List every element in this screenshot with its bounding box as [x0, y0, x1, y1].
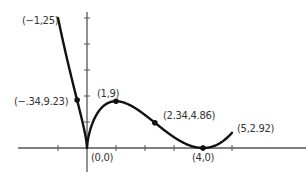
point-label-neg1-25: (−1,25)	[22, 15, 58, 26]
point-label-4-0: (4,0)	[192, 152, 214, 163]
point-label-neg034-923: (−.34,9.23)	[14, 96, 68, 107]
point-marker	[113, 98, 119, 104]
function-curve	[58, 18, 232, 148]
point-label-5-292: (5,2.92)	[237, 123, 274, 134]
point-label-1-9: (1,9)	[97, 88, 119, 99]
point-marker	[200, 145, 206, 151]
point-label-origin: (0,0)	[91, 152, 113, 163]
point-marker	[152, 120, 158, 126]
function-graph	[0, 0, 306, 182]
point-label-234-486: (2.34,4.86)	[163, 110, 215, 121]
point-marker	[74, 97, 80, 103]
